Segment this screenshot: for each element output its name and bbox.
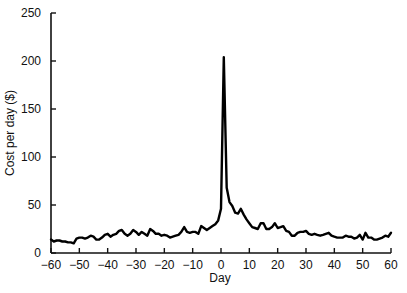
y-tick-label: 50: [28, 198, 42, 212]
x-tick-label: 30: [299, 258, 313, 272]
y-tick-label: 100: [21, 150, 41, 164]
x-tick-label: −10: [182, 258, 203, 272]
x-tick-label: −20: [154, 258, 175, 272]
ticks: [51, 13, 391, 253]
x-tick-label: 10: [243, 258, 257, 272]
series-line-cost-per-day: [51, 57, 391, 243]
x-tick-label: 50: [356, 258, 370, 272]
series-group: [51, 57, 391, 243]
x-tick-label: 40: [328, 258, 342, 272]
x-tick-label: −50: [69, 258, 90, 272]
y-tick-label: 250: [21, 6, 41, 20]
x-axis-title: Day: [209, 271, 230, 285]
tick-labels: 050100150200250−60−50−40−30−20−100102030…: [21, 6, 398, 272]
x-tick-label: −30: [126, 258, 147, 272]
y-tick-label: 200: [21, 54, 41, 68]
x-tick-label: −40: [97, 258, 118, 272]
y-axis-title: Cost per day ($): [3, 90, 17, 176]
x-tick-label: −60: [41, 258, 62, 272]
x-tick-label: 60: [384, 258, 398, 272]
y-tick-label: 150: [21, 102, 41, 116]
x-tick-label: 0: [218, 258, 225, 272]
x-tick-label: 20: [271, 258, 285, 272]
line-chart: 050100150200250−60−50−40−30−20−100102030…: [0, 0, 407, 293]
axes: [51, 13, 391, 253]
